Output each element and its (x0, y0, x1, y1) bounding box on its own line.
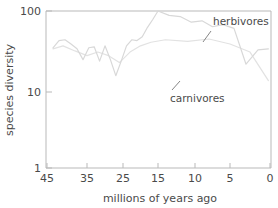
annotation-herbivores: herbivores (213, 15, 269, 27)
x-tick-label-10: 10 (188, 172, 202, 185)
x-tick-label-0: 0 (267, 172, 274, 185)
herbivores-leader-line (203, 31, 211, 42)
carnivores-leader-line (172, 81, 180, 90)
x-tick-label-25: 25 (116, 172, 130, 185)
x-tick-label-35: 35 (80, 172, 94, 185)
x-tick-label-5: 5 (227, 172, 234, 185)
y-tick-label-10: 10 (27, 86, 41, 99)
x-axis-label: millions of years ago (103, 192, 217, 205)
x-tick-label-15: 15 (151, 172, 165, 185)
series-line-carnivores (53, 39, 268, 81)
x-tick-label-45: 45 (40, 172, 54, 185)
y-axis-label: species diversity (3, 43, 16, 136)
chart-page: 100 10 1 45 35 25 15 10 5 0 herbivores c… (0, 0, 278, 208)
y-tick-label-100: 100 (20, 5, 41, 18)
annotation-carnivores: carnivores (170, 92, 225, 104)
species-diversity-chart: 100 10 1 45 35 25 15 10 5 0 herbivores c… (0, 0, 278, 208)
